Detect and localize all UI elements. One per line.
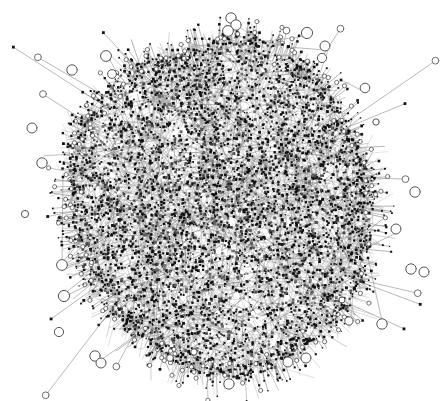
network-graph-figure: Force-directed network graph	[0, 0, 445, 401]
network-graph-canvas	[0, 0, 445, 401]
